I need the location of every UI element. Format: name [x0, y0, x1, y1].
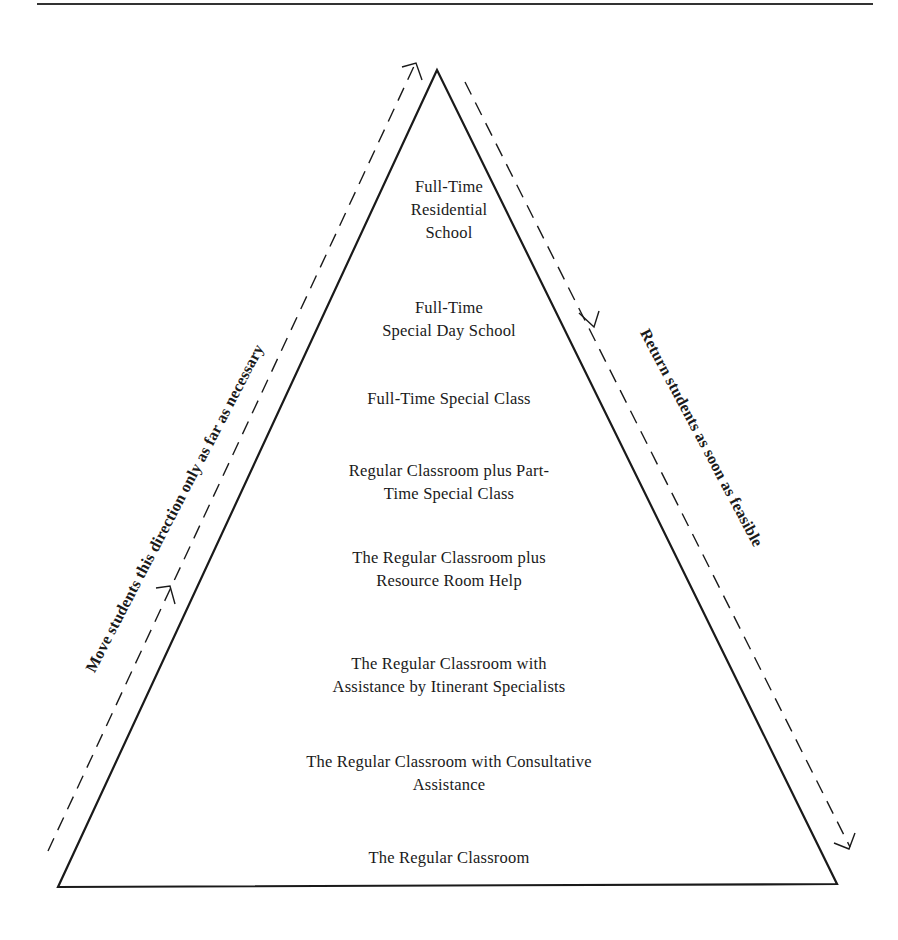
level-line: School: [0, 221, 898, 244]
level-line: Time Special Class: [0, 482, 898, 505]
level-line: The Regular Classroom with Consultative: [0, 750, 898, 773]
level-line: Assistance by Itinerant Specialists: [0, 675, 898, 698]
level-line: Special Day School: [0, 319, 898, 342]
level-line: Residential: [0, 198, 898, 221]
level-line: Assistance: [0, 773, 898, 796]
level-line: Regular Classroom plus Part-: [0, 459, 898, 482]
level-residential-school: Full-Time Residential School: [0, 175, 898, 244]
level-line: Full-Time: [0, 175, 898, 198]
level-part-time-special-class: Regular Classroom plus Part- Time Specia…: [0, 459, 898, 505]
level-consultative-assistance: The Regular Classroom with Consultative …: [0, 750, 898, 796]
level-line: Full-Time: [0, 296, 898, 319]
level-line: The Regular Classroom with: [0, 652, 898, 675]
level-itinerant-specialists: The Regular Classroom with Assistance by…: [0, 652, 898, 698]
level-special-class: Full-Time Special Class: [0, 387, 898, 410]
level-line: Full-Time Special Class: [0, 387, 898, 410]
level-regular-classroom: The Regular Classroom: [0, 846, 898, 869]
level-line: The Regular Classroom: [0, 846, 898, 869]
level-special-day-school: Full-Time Special Day School: [0, 296, 898, 342]
